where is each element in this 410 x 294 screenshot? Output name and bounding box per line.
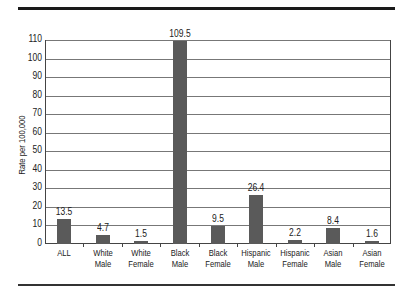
bar [326,228,340,244]
y-tick-label: 0 [18,237,42,248]
x-category-label: ALL [47,248,81,259]
x-tick [353,244,354,247]
y-tick-label: 30 [18,181,42,192]
x-tick [199,244,200,247]
bar-value-label: 1.5 [124,228,158,239]
y-tick-label: 80 [18,89,42,100]
x-category-label: White Male [86,248,120,270]
x-category-label: Asian Male [316,248,350,270]
bar-value-label: 109.5 [163,28,197,39]
bar-value-label: 9.5 [201,213,235,224]
bottom-rule [18,284,395,286]
bar [96,235,110,244]
x-tick [276,244,277,247]
bar [365,241,379,244]
bar [211,226,225,244]
y-tick-label: 10 [18,218,42,229]
bar-value-label: 13.5 [47,206,81,217]
bar [249,195,263,244]
x-tick [160,244,161,247]
x-tick [122,244,123,247]
x-tick [83,244,84,247]
bar [57,219,71,244]
x-tick [314,244,315,247]
y-axis-label: Rate per 100,000 [17,111,27,179]
y-tick-label: 110 [18,33,42,44]
x-category-label: Black Female [201,248,235,270]
x-category-label: Asian Female [355,248,389,270]
y-tick-label: 20 [18,200,42,211]
y-tick-label: 90 [18,70,42,81]
bar [173,41,187,244]
bar-value-label: 8.4 [316,215,350,226]
x-category-label: Black Male [163,248,197,270]
x-category-label: Hispanic Female [278,248,312,270]
y-tick-label: 100 [18,52,42,63]
bar-value-label: 26.4 [239,182,273,193]
bar-value-label: 2.2 [278,227,312,238]
bar-value-label: 4.7 [86,222,120,233]
top-rule [18,7,395,10]
x-tick [237,244,238,247]
bar [288,240,302,244]
x-category-label: White Female [124,248,158,270]
x-category-label: Hispanic Male [239,248,273,270]
bar-value-label: 1.6 [355,228,389,239]
bar [134,241,148,244]
